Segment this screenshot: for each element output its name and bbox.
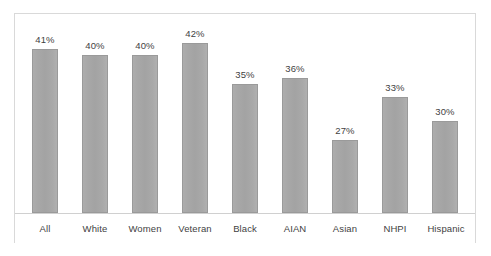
category-label-asian: Asian <box>320 214 370 243</box>
bar-value-label: 30% <box>435 106 454 117</box>
category-label-black: Black <box>220 214 270 243</box>
category-label-aian: AIAN <box>270 214 320 243</box>
bar-all <box>32 49 58 213</box>
bar-nhpi <box>382 97 408 213</box>
category-label-hispanic: Hispanic <box>420 214 472 243</box>
category-label-veteran: Veteran <box>170 214 220 243</box>
bar-asian <box>332 140 358 213</box>
bar-black <box>232 84 258 213</box>
bar-value-label: 27% <box>335 125 354 136</box>
bar-aian <box>282 78 308 213</box>
bar-white <box>82 55 108 213</box>
category-axis: All White Women Veteran Black AIAN Asian… <box>15 214 475 243</box>
bar-value-label: 42% <box>185 28 204 39</box>
category-label-all: All <box>20 214 70 243</box>
category-label-white: White <box>70 214 120 243</box>
plot-area: 41% 40% 40% 42% 35% 36% 27 <box>15 14 475 213</box>
bar-value-label: 33% <box>385 82 404 93</box>
category-label-women: Women <box>120 214 170 243</box>
bar-value-label: 36% <box>285 63 304 74</box>
bar-women <box>132 55 158 213</box>
category-label-nhpi: NHPI <box>370 214 420 243</box>
bar-value-label: 35% <box>235 69 254 80</box>
bar-value-label: 40% <box>85 40 104 51</box>
bar-hispanic <box>432 121 458 213</box>
bar-value-label: 41% <box>35 34 54 45</box>
bar-veteran <box>182 43 208 213</box>
bar-value-label: 40% <box>135 40 154 51</box>
chart-frame: 41% 40% 40% 42% 35% 36% 27 <box>14 13 476 243</box>
